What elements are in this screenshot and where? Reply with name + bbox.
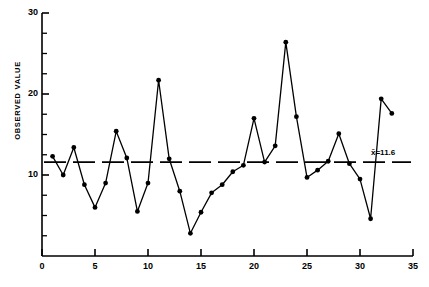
x-axis-tick-label: 35 <box>398 261 428 271</box>
x-axis-tick-label: 30 <box>345 261 375 271</box>
data-point-marker <box>379 96 384 101</box>
data-point-marker <box>326 159 331 164</box>
x-axis-tick-label: 20 <box>239 261 269 271</box>
data-point-marker <box>283 40 288 45</box>
data-point-marker <box>209 190 214 195</box>
chart-axes <box>42 13 413 256</box>
data-point-marker <box>336 131 341 136</box>
data-point-marker <box>146 181 151 186</box>
data-point-marker <box>241 163 246 168</box>
data-series-line <box>53 42 392 233</box>
mean-value-annotation: x̄=11.6 <box>371 148 395 157</box>
y-axis-title: OBSERVED VALUE <box>13 36 22 166</box>
data-point-marker <box>82 182 87 187</box>
data-point-marker <box>273 143 278 148</box>
data-point-marker <box>347 161 352 166</box>
data-point-marker <box>389 111 394 116</box>
line-chart-plot <box>0 0 429 287</box>
data-point-marker <box>368 216 373 221</box>
data-point-markers <box>50 40 394 236</box>
data-point-marker <box>262 160 267 165</box>
y-axis-tick-label: 20 <box>16 88 38 98</box>
data-point-marker <box>124 156 129 161</box>
data-point-marker <box>135 209 140 214</box>
x-axis-ticks <box>42 249 413 256</box>
x-axis-tick-label: 15 <box>186 261 216 271</box>
x-axis-tick-label: 25 <box>292 261 322 271</box>
y-axis-tick-label: 30 <box>16 7 38 17</box>
x-axis-tick-label: 10 <box>133 261 163 271</box>
data-point-marker <box>188 231 193 236</box>
data-point-marker <box>156 78 161 83</box>
data-point-marker <box>252 116 257 121</box>
chart-container: OBSERVED VALUE 102030 05101520253035 x̄=… <box>0 0 429 287</box>
data-point-marker <box>103 181 108 186</box>
data-point-marker <box>358 177 363 182</box>
data-point-marker <box>50 154 55 159</box>
data-point-marker <box>220 182 225 187</box>
data-point-marker <box>71 145 76 150</box>
data-point-marker <box>294 114 299 119</box>
data-point-marker <box>199 210 204 215</box>
data-point-marker <box>177 189 182 194</box>
y-axis-tick-label: 10 <box>16 169 38 179</box>
data-point-marker <box>230 169 235 174</box>
data-point-marker <box>167 156 172 161</box>
x-axis-tick-label: 5 <box>80 261 110 271</box>
data-point-marker <box>61 173 66 178</box>
x-axis-tick-label: 0 <box>27 261 57 271</box>
data-point-marker <box>315 168 320 173</box>
data-point-marker <box>114 129 119 134</box>
data-point-marker <box>305 175 310 180</box>
y-axis-ticks <box>42 13 49 236</box>
data-point-marker <box>93 205 98 210</box>
series-polyline <box>53 42 392 233</box>
